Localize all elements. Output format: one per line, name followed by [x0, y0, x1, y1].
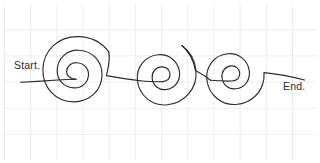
- spiral-1: [43, 37, 109, 102]
- drawing-canvas: Start. End.: [0, 0, 320, 163]
- connector-1-to-2: [106, 52, 140, 81]
- start-lead-in-line: [21, 79, 77, 82]
- start-label: Start.: [14, 60, 40, 71]
- end-label: End.: [283, 81, 305, 92]
- spiral-2: [137, 46, 196, 105]
- spiral-3: [207, 54, 263, 105]
- canvas-margin-left: [0, 0, 4, 163]
- canvas-margin-bottom: [0, 160, 320, 163]
- spiral-path-drawing: [0, 0, 320, 163]
- canvas-margin-top: [0, 0, 320, 4]
